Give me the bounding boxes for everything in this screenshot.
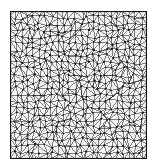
figure-root [0,0,154,165]
mesh-edge-layer [10,11,147,159]
mesh-edges [10,11,147,159]
mesh-panel [10,11,147,159]
triangular-mesh-diagram [10,11,147,159]
